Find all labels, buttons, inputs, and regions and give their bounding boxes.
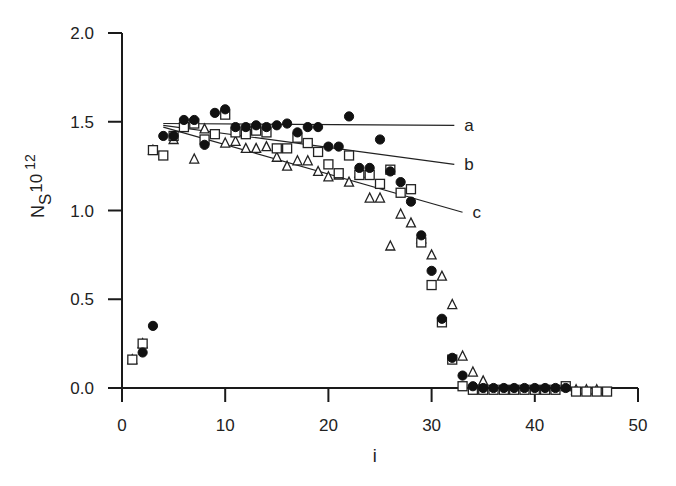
x-tick-label: 30 bbox=[422, 416, 441, 435]
triangle-marker bbox=[283, 161, 292, 170]
triangle-marker bbox=[272, 152, 281, 161]
triangle-marker bbox=[468, 367, 477, 376]
circle-marker bbox=[458, 371, 467, 380]
circle-marker bbox=[159, 131, 168, 140]
triangle-marker bbox=[262, 142, 271, 151]
square-marker bbox=[376, 179, 385, 188]
circle-marker bbox=[396, 178, 405, 187]
square-marker bbox=[148, 146, 157, 155]
circle-marker bbox=[530, 383, 539, 392]
circle-marker bbox=[200, 140, 209, 149]
square-marker bbox=[345, 151, 354, 160]
triangle-marker bbox=[437, 271, 446, 280]
x-tick-label: 20 bbox=[319, 416, 338, 435]
square-marker bbox=[603, 387, 612, 396]
square-marker bbox=[283, 144, 292, 153]
circle-marker bbox=[561, 383, 570, 392]
square-marker bbox=[406, 185, 415, 194]
circle-marker bbox=[510, 383, 519, 392]
circle-marker bbox=[169, 131, 178, 140]
circle-marker bbox=[551, 383, 560, 392]
circle-marker bbox=[148, 321, 157, 330]
circle-marker bbox=[190, 115, 199, 124]
circle-marker bbox=[344, 112, 353, 121]
triangle-marker bbox=[448, 300, 457, 309]
triangle-marker bbox=[252, 143, 261, 152]
circle-marker bbox=[355, 163, 364, 172]
data-markers bbox=[128, 105, 612, 396]
triangle-marker bbox=[396, 209, 405, 218]
square-marker bbox=[272, 144, 281, 153]
y-axis-title: NS1012 bbox=[22, 154, 55, 218]
circle-marker bbox=[541, 383, 550, 392]
circle-marker bbox=[406, 197, 415, 206]
fit-line-label-c: c bbox=[473, 203, 482, 222]
triangle-marker bbox=[314, 166, 323, 175]
circle-marker bbox=[499, 383, 508, 392]
circle-marker bbox=[448, 353, 457, 362]
square-marker bbox=[303, 139, 312, 148]
circle-marker bbox=[365, 163, 374, 172]
square-marker bbox=[427, 281, 436, 290]
triangle-marker bbox=[406, 218, 415, 227]
y-tick-label: 0.5 bbox=[70, 290, 94, 309]
circle-marker bbox=[241, 122, 250, 131]
square-marker bbox=[582, 387, 591, 396]
axes: 010203040500.00.51.01.52.0 bbox=[70, 24, 647, 435]
square-marker bbox=[572, 387, 581, 396]
fit-line-label-b: b bbox=[464, 155, 473, 174]
scatter-chart: 010203040500.00.51.01.52.0 abc i NS1012 bbox=[0, 0, 676, 486]
circle-marker bbox=[437, 314, 446, 323]
triangle-marker bbox=[386, 241, 395, 250]
triangle-marker bbox=[221, 138, 230, 147]
circle-marker bbox=[489, 383, 498, 392]
x-tick-label: 0 bbox=[117, 416, 126, 435]
triangle-marker bbox=[231, 136, 240, 145]
fit-line-label-a: a bbox=[464, 116, 474, 135]
y-tick-label: 1.5 bbox=[70, 113, 94, 132]
square-marker bbox=[138, 339, 147, 348]
triangle-marker bbox=[376, 193, 385, 202]
triangle-marker bbox=[458, 351, 467, 360]
triangle-marker bbox=[241, 143, 250, 152]
x-tick-label: 10 bbox=[216, 416, 235, 435]
square-marker bbox=[396, 188, 405, 197]
triangle-marker bbox=[303, 156, 312, 165]
circle-marker bbox=[221, 105, 230, 114]
circle-marker bbox=[272, 121, 281, 130]
y-tick-label: 2.0 bbox=[70, 24, 94, 43]
x-axis-title: i bbox=[373, 446, 377, 466]
circle-marker bbox=[313, 122, 322, 131]
circle-marker bbox=[520, 383, 529, 392]
y-tick-label: 1.0 bbox=[70, 202, 94, 221]
x-tick-label: 40 bbox=[525, 416, 544, 435]
square-marker bbox=[334, 169, 343, 178]
circle-marker bbox=[334, 142, 343, 151]
triangle-marker bbox=[200, 124, 209, 133]
square-marker bbox=[314, 147, 323, 156]
circle-marker bbox=[179, 115, 188, 124]
circle-marker bbox=[375, 135, 384, 144]
circle-marker bbox=[417, 231, 426, 240]
circle-marker bbox=[293, 128, 302, 137]
square-marker bbox=[128, 355, 137, 364]
circle-marker bbox=[386, 167, 395, 176]
square-marker bbox=[458, 382, 467, 391]
square-marker bbox=[592, 387, 601, 396]
y-tick-label: 0.0 bbox=[70, 379, 94, 398]
circle-marker bbox=[210, 108, 219, 117]
circle-marker bbox=[303, 122, 312, 131]
x-tick-label: 50 bbox=[629, 416, 648, 435]
triangle-marker bbox=[427, 250, 436, 259]
circle-marker bbox=[283, 119, 292, 128]
square-marker bbox=[210, 130, 219, 139]
triangle-marker bbox=[365, 193, 374, 202]
square-marker bbox=[159, 151, 168, 160]
triangle-marker bbox=[293, 156, 302, 165]
y-axis-title-text: NS1012 bbox=[22, 154, 55, 218]
circle-marker bbox=[479, 383, 488, 392]
circle-marker bbox=[468, 382, 477, 391]
square-marker bbox=[324, 160, 333, 169]
circle-marker bbox=[324, 142, 333, 151]
circle-marker bbox=[427, 266, 436, 275]
